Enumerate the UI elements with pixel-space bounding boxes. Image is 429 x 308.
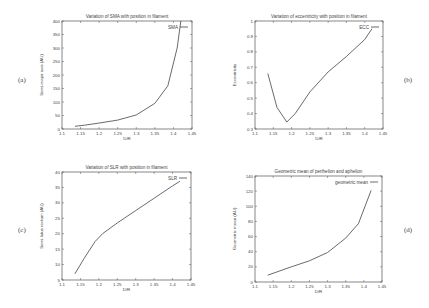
y-tick-label: 0.5 bbox=[247, 96, 254, 101]
y-axis-label: Eccentricity bbox=[232, 63, 237, 86]
plot-frame bbox=[255, 21, 383, 129]
y-tick-label: 0.4 bbox=[247, 111, 254, 116]
y-tick-label: 1 bbox=[251, 19, 254, 24]
y-axis-label: Geometric mean (AU) bbox=[232, 207, 237, 250]
x-tick-label: 1.15 bbox=[269, 284, 278, 289]
chart-sma-plot: Variation of SMA with position in filame… bbox=[0, 0, 215, 150]
y-tick-label: 0.6 bbox=[247, 80, 254, 85]
y-tick-label: 60 bbox=[248, 234, 253, 239]
x-tick-label: 1.45 bbox=[188, 131, 197, 136]
chart-title: Variation of SLR with position in filame… bbox=[86, 165, 169, 170]
legend-label: ECC bbox=[359, 25, 369, 30]
y-axis-label: Semi-major axis (AU) bbox=[39, 54, 44, 96]
y-tick-label: 15 bbox=[55, 247, 60, 252]
y-tick-label: 120 bbox=[246, 189, 254, 194]
y-tick-label: 35 bbox=[55, 185, 60, 190]
x-tick-label: 1.3 bbox=[133, 131, 140, 136]
x-tick-label: 1.35 bbox=[151, 131, 160, 136]
y-tick-label: 10 bbox=[55, 262, 60, 267]
chart-slr: Variation of SLR with position in filame… bbox=[0, 150, 215, 308]
x-axis-label: D/R bbox=[315, 289, 323, 294]
y-tick-label: 80 bbox=[248, 219, 253, 224]
data-line bbox=[75, 21, 181, 126]
x-tick-label: 1.4 bbox=[362, 131, 369, 136]
legend-label: geometric mean bbox=[335, 180, 368, 185]
x-tick-label: 1.3 bbox=[325, 131, 332, 136]
y-tick-label: 20 bbox=[55, 231, 60, 236]
chart-title: Geometric mean of perihelion and aphelio… bbox=[275, 169, 363, 174]
y-tick-label: 0.9 bbox=[247, 34, 254, 39]
x-tick-label: 1.4 bbox=[170, 131, 177, 136]
x-tick-label: 1.2 bbox=[96, 282, 103, 287]
panel-label-d: (d) bbox=[404, 226, 412, 234]
data-line bbox=[75, 181, 180, 274]
x-tick-label: 1.25 bbox=[305, 284, 314, 289]
x-tick-label: 1.15 bbox=[76, 131, 85, 136]
x-tick-label: 1.45 bbox=[187, 282, 196, 287]
legend-label: SMA bbox=[168, 25, 179, 30]
x-tick-label: 1.15 bbox=[269, 131, 278, 136]
x-tick-label: 1.3 bbox=[325, 284, 332, 289]
x-tick-label: 1.2 bbox=[289, 131, 296, 136]
x-tick-label: 1.35 bbox=[341, 284, 350, 289]
x-tick-label: 1.3 bbox=[133, 282, 140, 287]
x-tick-label: 1.25 bbox=[306, 131, 315, 136]
chart-title: Variation of eccentricity with position … bbox=[271, 14, 368, 19]
plot-frame bbox=[255, 176, 382, 282]
x-tick-label: 1.1 bbox=[252, 131, 259, 136]
y-tick-label: 300 bbox=[53, 46, 61, 51]
chart-geometric-mean: Geometric mean of perihelion and aphelio… bbox=[210, 150, 429, 308]
y-tick-label: 140 bbox=[246, 174, 254, 179]
x-tick-label: 1.15 bbox=[76, 282, 85, 287]
x-axis-label: D/R bbox=[123, 287, 131, 292]
chart-title: Variation of SMA with position in filame… bbox=[86, 14, 169, 19]
chart-slr-plot: Variation of SLR with position in filame… bbox=[0, 150, 215, 308]
x-tick-label: 1.2 bbox=[96, 131, 103, 136]
y-tick-label: 100 bbox=[246, 204, 254, 209]
y-tick-label: 20 bbox=[248, 264, 253, 269]
chart-eccentricity-plot: Variation of eccentricity with position … bbox=[210, 0, 429, 150]
x-tick-label: 1.4 bbox=[361, 284, 368, 289]
x-tick-label: 1.35 bbox=[342, 131, 351, 136]
y-tick-label: 50 bbox=[55, 113, 60, 118]
chart-sma: Variation of SMA with position in filame… bbox=[0, 0, 215, 150]
x-tick-label: 1.1 bbox=[59, 131, 66, 136]
y-tick-label: 0.7 bbox=[247, 65, 254, 70]
y-tick-label: 200 bbox=[53, 73, 61, 78]
y-tick-label: 350 bbox=[53, 32, 61, 37]
y-tick-label: 40 bbox=[248, 249, 253, 254]
x-tick-label: 1.1 bbox=[59, 282, 66, 287]
data-line bbox=[268, 190, 371, 275]
x-tick-label: 1.1 bbox=[252, 284, 259, 289]
x-tick-label: 1.2 bbox=[288, 284, 295, 289]
plot-frame bbox=[62, 21, 192, 129]
chart-eccentricity: Variation of eccentricity with position … bbox=[210, 0, 429, 150]
y-axis-label: Semi-latus rectum (AU) bbox=[39, 203, 44, 249]
x-tick-label: 1.25 bbox=[113, 282, 122, 287]
panel-label-b: (b) bbox=[404, 76, 412, 84]
x-tick-label: 1.35 bbox=[150, 282, 159, 287]
y-tick-label: 25 bbox=[55, 216, 60, 221]
data-line bbox=[268, 29, 372, 122]
x-tick-label: 1.45 bbox=[379, 131, 388, 136]
x-tick-label: 1.25 bbox=[113, 131, 122, 136]
y-tick-label: 40 bbox=[55, 170, 60, 175]
y-tick-label: 250 bbox=[53, 59, 61, 64]
y-tick-label: 100 bbox=[53, 100, 61, 105]
panel-label-c: (c) bbox=[18, 226, 26, 234]
chart-geometric-mean-plot: Geometric mean of perihelion and aphelio… bbox=[210, 150, 429, 308]
x-axis-label: D/R bbox=[315, 136, 323, 141]
panel-label-a: (a) bbox=[18, 76, 26, 84]
y-tick-label: 400 bbox=[53, 19, 61, 24]
x-tick-label: 1.45 bbox=[378, 284, 387, 289]
x-axis-label: D/R bbox=[123, 136, 131, 141]
legend-label: SLR bbox=[168, 176, 178, 181]
y-tick-label: 30 bbox=[55, 200, 60, 205]
y-tick-label: 0.3 bbox=[247, 127, 254, 132]
x-tick-label: 1.4 bbox=[170, 282, 177, 287]
y-tick-label: 0.8 bbox=[247, 49, 254, 54]
y-tick-label: 150 bbox=[53, 86, 61, 91]
